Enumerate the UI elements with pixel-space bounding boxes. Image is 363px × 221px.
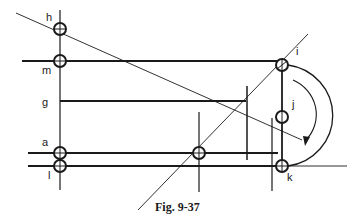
- label-j: j: [291, 98, 294, 110]
- figure-caption: Fig. 9-37: [155, 200, 200, 214]
- arrow-head-icon: [303, 136, 310, 146]
- label-m: m: [42, 64, 51, 76]
- label-k: k: [287, 171, 293, 183]
- label-i: i: [296, 45, 298, 57]
- label-h: h: [46, 11, 52, 23]
- label-a: a: [42, 136, 49, 148]
- label-g: g: [42, 96, 48, 108]
- rotation-arc: [288, 65, 333, 166]
- label-l: l: [48, 169, 50, 181]
- diagram-canvas: h m g a l i j k Fig. 9-37: [0, 0, 363, 221]
- rotation-arrow-arc: [293, 80, 316, 140]
